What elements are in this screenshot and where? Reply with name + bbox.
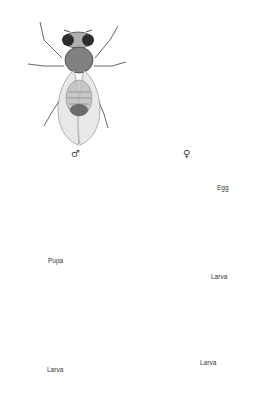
larva-label-3: Larva bbox=[47, 366, 63, 373]
life-cycle-illustration bbox=[0, 0, 278, 393]
larva-label-2: Larva bbox=[200, 359, 216, 366]
larva-label-1: Larva bbox=[211, 273, 227, 280]
life-cycle-diagram: ♂ ♀ Egg Larva Larva Larva Pupa bbox=[0, 0, 278, 393]
female-symbol: ♀ bbox=[183, 148, 190, 159]
egg-label: Egg bbox=[217, 184, 229, 191]
male-symbol: ♂ bbox=[71, 148, 80, 159]
pupa-label: Pupa bbox=[48, 257, 63, 264]
male-fly-illustration bbox=[28, 22, 126, 145]
